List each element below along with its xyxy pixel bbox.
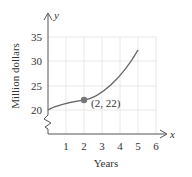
y-tick-35: 35 (31, 31, 43, 43)
data-point (81, 97, 87, 103)
axis-break-icon (44, 115, 51, 129)
axes (44, 13, 167, 138)
x-tick-1: 1 (63, 140, 69, 152)
x-axis-label: Years (94, 157, 119, 169)
x-tick-2: 2 (81, 140, 87, 152)
x-tick-3: 3 (99, 140, 105, 152)
x-axis-symbol: x (169, 128, 175, 140)
x-tick-6: 6 (153, 140, 159, 152)
chart: y x 35 30 25 20 1 2 3 4 5 6 Years Millio… (0, 0, 192, 177)
point-annotation: (2, 22) (91, 97, 121, 110)
grid (48, 37, 156, 134)
y-axis-symbol: y (53, 9, 59, 21)
x-tick-4: 4 (117, 140, 123, 152)
y-axis-label: Million dollars (9, 43, 21, 109)
x-tick-5: 5 (135, 140, 141, 152)
y-tick-30: 30 (31, 55, 43, 67)
y-tick-25: 25 (31, 80, 43, 92)
y-tick-20: 20 (31, 104, 43, 116)
